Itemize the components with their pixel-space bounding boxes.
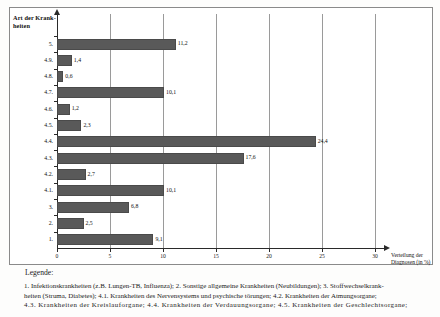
x-axis-tick-label: 15 — [213, 253, 219, 260]
y-axis-category-label: 5. — [17, 40, 53, 48]
bar-row: 1.9,1 — [0, 232, 440, 248]
y-axis-title: Art der Krank- heiten — [13, 14, 71, 30]
x-axis-title: Verteilung der Diagnosen (in %) — [391, 252, 437, 267]
bar-value-label: 2,5 — [86, 219, 93, 227]
y-axis-tick — [54, 183, 58, 184]
bar — [57, 55, 72, 66]
legend-line-1: 1. Infektionskrankheiten (z.B. Lungen-TB… — [24, 281, 426, 290]
y-axis-title-line-2: heiten — [13, 22, 30, 29]
chart-page: Art der Krank- heiten 051015202530 5.11,… — [0, 0, 440, 317]
bar-row: 3.6,8 — [0, 199, 440, 215]
y-axis-tick — [54, 69, 58, 70]
bar-row: 2.2,5 — [0, 215, 440, 231]
x-axis-title-line-1: Verteilung der — [391, 252, 423, 258]
x-axis-tick — [163, 248, 164, 252]
x-axis-tick-label: 0 — [56, 253, 59, 260]
y-axis-category-label: 4.2. — [17, 170, 53, 178]
x-axis-line — [57, 248, 385, 249]
bar-value-label: 0,6 — [65, 72, 72, 80]
bar-row: 4.6.1,2 — [0, 101, 440, 117]
bar-row: 4.9.1,4 — [0, 52, 440, 68]
bar — [57, 202, 129, 213]
y-axis-category-label: 3. — [17, 203, 53, 211]
y-axis-category-label: 4.6. — [17, 105, 53, 113]
bar — [57, 234, 153, 245]
y-axis-category-label: 4.4. — [17, 137, 53, 145]
bar-row: 4.5.2,3 — [0, 118, 440, 134]
y-axis-tick — [54, 118, 58, 119]
bar-row: 4.4.24,4 — [0, 134, 440, 150]
bar — [57, 87, 164, 98]
y-axis-category-label: 4.7. — [17, 88, 53, 96]
x-axis-tick-label: 20 — [266, 253, 272, 260]
bar-value-label: 6,8 — [131, 202, 138, 210]
bar-row: 4.1.10,1 — [0, 183, 440, 199]
y-axis-category-label: 4.8. — [17, 72, 53, 80]
legend-line-2: heiten (Struma, Diabetes); 4.1. Krankhei… — [24, 291, 426, 300]
bar-value-label: 11,2 — [178, 39, 188, 47]
y-axis-category-label: 1. — [17, 235, 53, 243]
bar — [57, 185, 164, 196]
bar-value-label: 9,1 — [155, 235, 162, 243]
y-axis-tick — [54, 199, 58, 200]
y-axis-tick — [54, 232, 58, 233]
bar — [57, 153, 244, 164]
legend-title: Legende: — [25, 268, 53, 278]
y-axis-tick — [54, 85, 58, 86]
bar-value-label: 10,1 — [166, 88, 176, 96]
x-axis-tick — [216, 248, 217, 252]
y-axis-category-label: 4.1. — [17, 186, 53, 194]
bar — [57, 104, 70, 115]
y-axis-arrow-icon — [54, 9, 60, 15]
y-axis-tick — [54, 134, 58, 135]
y-axis-tick — [54, 215, 58, 216]
bar-row: 5.11,2 — [0, 36, 440, 52]
y-axis-tick — [54, 36, 58, 37]
bar-value-label: 17,6 — [246, 153, 256, 161]
y-axis-tick — [54, 150, 58, 151]
x-axis-tick-label: 5 — [109, 253, 112, 260]
y-axis-tick — [54, 166, 58, 167]
y-axis-category-label: 4.5. — [17, 121, 53, 129]
bar — [57, 39, 176, 50]
x-axis-tick — [322, 248, 323, 252]
bar-value-label: 10,1 — [166, 186, 176, 194]
y-axis-category-label: 2. — [17, 219, 53, 227]
bar-value-label: 1,2 — [72, 104, 79, 112]
bar-value-label: 2,3 — [83, 121, 90, 129]
bar — [57, 71, 63, 82]
bar-row: 4.7.10,1 — [0, 85, 440, 101]
x-axis-tick-label: 25 — [319, 253, 325, 260]
x-axis-tick — [269, 248, 270, 252]
y-axis-category-label: 4.3. — [17, 154, 53, 162]
bar-row: 4.2.2,7 — [0, 166, 440, 182]
bar — [57, 136, 316, 147]
bar — [57, 218, 84, 229]
bar-value-label: 24,4 — [318, 137, 328, 145]
bar-value-label: 1,4 — [74, 56, 81, 64]
x-axis-tick — [375, 248, 376, 252]
x-axis-title-line-2: Diagnosen (in %) — [391, 259, 430, 265]
bar — [57, 120, 81, 131]
x-axis-tick-label: 10 — [160, 253, 166, 260]
y-axis-category-label: 4.9. — [17, 56, 53, 64]
x-axis-tick — [110, 248, 111, 252]
bar — [57, 169, 86, 180]
x-axis-tick — [57, 248, 58, 252]
y-axis-title-line-1: Art der Krank- — [13, 14, 56, 21]
legend-line-3: 4.3. Krankheiten der Kreislauforgane; 4.… — [24, 300, 426, 309]
bar-value-label: 2,7 — [88, 170, 95, 178]
bar-row: 4.3.17,6 — [0, 150, 440, 166]
x-axis-tick-label: 30 — [372, 253, 378, 260]
y-axis-tick — [54, 101, 58, 102]
y-axis-tick — [54, 52, 58, 53]
bar-row: 4.8.0,6 — [0, 69, 440, 85]
